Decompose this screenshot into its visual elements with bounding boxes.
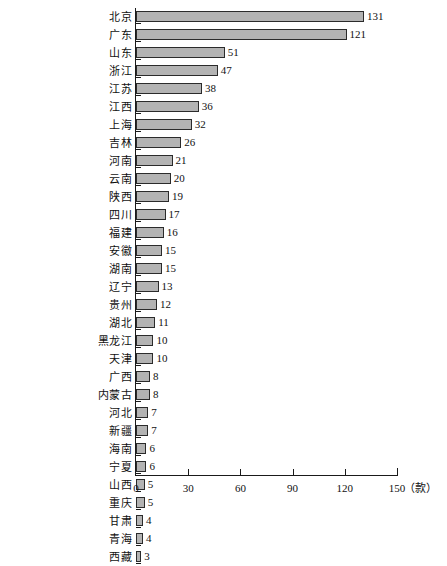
bar xyxy=(136,47,225,58)
y-axis-tick xyxy=(136,509,141,510)
bar xyxy=(136,137,181,148)
bar-value-label: 7 xyxy=(151,405,157,420)
bar xyxy=(136,281,159,292)
bar-row: 广东121 xyxy=(0,26,447,44)
category-label: 安徽 xyxy=(12,243,132,259)
category-label: 广西 xyxy=(12,369,132,385)
category-label: 河北 xyxy=(12,405,132,421)
category-label: 贵州 xyxy=(12,297,132,313)
y-axis-tick xyxy=(136,419,141,420)
y-axis-tick xyxy=(136,383,141,384)
y-axis-tick xyxy=(136,473,141,474)
category-label: 浙江 xyxy=(12,63,132,79)
bar-row: 北京131 xyxy=(0,8,447,26)
bar-value-label: 6 xyxy=(149,459,155,474)
bar-value-label: 19 xyxy=(172,189,183,204)
bar-value-label: 3 xyxy=(144,549,150,564)
bar xyxy=(136,65,218,76)
bar-value-label: 8 xyxy=(153,369,159,384)
bar xyxy=(136,11,364,22)
bar-value-label: 7 xyxy=(151,423,157,438)
y-axis-tick xyxy=(136,275,141,276)
bar-value-label: 6 xyxy=(149,441,155,456)
bar xyxy=(136,317,155,328)
y-axis-tick xyxy=(136,257,141,258)
bar-value-label: 21 xyxy=(176,153,187,168)
bar-row: 浙江47 xyxy=(0,62,447,80)
category-label: 吉林 xyxy=(12,135,132,151)
bar xyxy=(136,515,143,526)
bar-value-label: 36 xyxy=(202,99,213,114)
y-axis-tick xyxy=(136,563,141,564)
bar-value-label: 12 xyxy=(160,297,171,312)
bar-value-label: 4 xyxy=(146,531,152,546)
y-axis-tick xyxy=(136,77,141,78)
bar-row: 甘肃4 xyxy=(0,512,447,530)
category-label: 辽宁 xyxy=(12,279,132,295)
bar xyxy=(136,551,141,562)
bar xyxy=(136,155,173,166)
category-label: 四川 xyxy=(12,207,132,223)
bar-row: 重庆5 xyxy=(0,494,447,512)
bar-value-label: 15 xyxy=(165,243,176,258)
bar xyxy=(136,227,164,238)
category-label: 西藏 xyxy=(12,549,132,565)
bar-value-label: 15 xyxy=(165,261,176,276)
bar xyxy=(136,443,146,454)
x-axis-tick-label: 90 xyxy=(273,481,313,495)
x-axis-tick xyxy=(240,469,241,476)
x-axis-tick xyxy=(345,469,346,476)
bar xyxy=(136,173,171,184)
y-axis-tick xyxy=(136,221,141,222)
category-label: 宁夏 xyxy=(12,459,132,475)
category-label: 黑龙江 xyxy=(12,333,132,349)
y-axis-tick xyxy=(136,329,141,330)
category-label: 天津 xyxy=(12,351,132,367)
category-label: 甘肃 xyxy=(12,513,132,529)
y-axis-tick xyxy=(136,185,141,186)
bar-row: 海南6 xyxy=(0,440,447,458)
category-label: 山东 xyxy=(12,45,132,61)
bar-row: 江西36 xyxy=(0,98,447,116)
y-axis-tick xyxy=(136,59,141,60)
category-label: 福建 xyxy=(12,225,132,241)
bar xyxy=(136,29,347,40)
y-axis-tick xyxy=(136,239,141,240)
category-label: 内蒙古 xyxy=(12,387,132,403)
bar-value-label: 131 xyxy=(367,9,384,24)
bar-value-label: 38 xyxy=(205,81,216,96)
y-axis-tick xyxy=(136,41,141,42)
bar-row: 天津10 xyxy=(0,350,447,368)
category-label: 湖南 xyxy=(12,261,132,277)
bar xyxy=(136,191,169,202)
y-axis-tick xyxy=(136,437,141,438)
bar-row: 青海4 xyxy=(0,530,447,548)
bar xyxy=(136,263,162,274)
y-axis-tick xyxy=(136,293,141,294)
bar xyxy=(136,299,157,310)
x-axis-tick-label: 30 xyxy=(168,481,208,495)
category-label: 江西 xyxy=(12,99,132,115)
bar-row: 河北7 xyxy=(0,404,447,422)
category-label: 江苏 xyxy=(12,81,132,97)
y-axis-tick xyxy=(136,347,141,348)
bar xyxy=(136,119,192,130)
bar-value-label: 47 xyxy=(221,63,232,78)
bar-value-label: 20 xyxy=(174,171,185,186)
category-label: 河南 xyxy=(12,153,132,169)
bar xyxy=(136,371,150,382)
bar-row: 福建16 xyxy=(0,224,447,242)
category-label: 湖北 xyxy=(12,315,132,331)
bar xyxy=(136,425,148,436)
bar-value-label: 26 xyxy=(184,135,195,150)
category-label: 青海 xyxy=(12,531,132,547)
category-label: 广东 xyxy=(12,27,132,43)
y-axis-tick xyxy=(136,527,141,528)
bar-value-label: 10 xyxy=(156,333,167,348)
bar-row: 湖北11 xyxy=(0,314,447,332)
x-axis-tick-label: 120 xyxy=(325,481,365,495)
bar-row: 内蒙古8 xyxy=(0,386,447,404)
y-axis-tick xyxy=(136,95,141,96)
bar-row: 辽宁13 xyxy=(0,278,447,296)
